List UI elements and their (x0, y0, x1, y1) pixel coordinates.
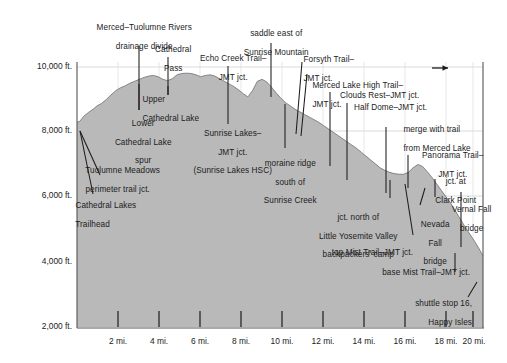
annotation-line: Cathedral Lakes (75, 201, 136, 210)
annotation-line: bridge (424, 257, 447, 266)
x-axis-label-10: 10 mi. (260, 337, 304, 347)
annotation-line: Forsyth Trail– (303, 55, 354, 64)
annotation-line: Tuolumne Meadows (85, 166, 160, 175)
annotation-line: JMT jct. (312, 100, 341, 109)
annotation-line: jct. north of (337, 213, 379, 222)
annotation-nevada-fall-bridge: Nevada Fall bridge (410, 211, 451, 276)
annotation-line: Merced Lake High Trail– (312, 81, 403, 90)
annotation-shuttle-stop-16-happy-isles: shuttle stop 16, Happy Isles (380, 290, 472, 336)
y-axis-label-10000: 10,000 ft. (8, 62, 72, 72)
annotation-line: JMT jct. (219, 73, 248, 82)
annotation-jct-north-little-yosemite-valley: jct. north of Little Yosemite Valley bac… (296, 204, 411, 269)
annotation-line: Nevada (421, 220, 450, 229)
annotation-line: Little Yosemite Valley (319, 232, 398, 241)
elevation-profile-figure: 10,000 ft. 8,000 ft. 6,000 ft. 4,000 ft.… (0, 0, 507, 363)
annotation-line: Vernal Fall (452, 205, 492, 214)
x-axis-label-8: 8 mi. (219, 337, 263, 347)
y-axis-label-8000: 8,000 ft. (8, 126, 72, 136)
annotation-line: shuttle stop 16, (415, 299, 472, 308)
x-axis-label-6: 6 mi. (178, 337, 222, 347)
x-axis-label-20: 20 mi. (452, 337, 496, 347)
y-axis-label-6000: 6,000 ft. (8, 191, 72, 201)
annotation-line: south of (275, 178, 305, 187)
annotation-line: Sunrise Lakes– (204, 129, 262, 138)
x-axis-label-12: 12 mi. (301, 337, 345, 347)
x-axis-label-4: 4 mi. (137, 337, 181, 347)
annotation-line: Lower (132, 119, 155, 128)
annotation-line: Panorama Trail– (422, 151, 483, 160)
annotation-base-mist-trail-jmt-jct: base Mist Trail–JMT jct. (340, 268, 470, 277)
x-axis-label-14: 14 mi. (342, 337, 386, 347)
annotation-half-dome-jmt-jct: Half Dome–JMT jct. (354, 103, 464, 112)
annotation-line: bridge (460, 224, 483, 233)
annotation-line: jct. at (446, 177, 466, 186)
y-axis-label-2000: 2,000 ft. (8, 322, 72, 332)
annotation-top-mist-trail-jmt-jct: top Mist Trail–JMT jct. (300, 248, 413, 257)
annotation-line: Happy Isles (428, 318, 472, 327)
annotation-line: Upper (142, 95, 165, 104)
x-axis-label-2: 2 mi. (96, 337, 140, 347)
x-axis-label-16: 16 mi. (383, 337, 427, 347)
annotation-line: moraine ridge (265, 159, 316, 168)
annotation-line: Merced–Tuolumne Rivers (97, 23, 192, 32)
annotation-line: Fall (428, 239, 442, 248)
annotation-line: Trailhead (75, 220, 110, 229)
annotation-line: merge with trail (403, 125, 460, 134)
annotation-cathedral-lakes-trailhead: Cathedral Lakes Trailhead (66, 192, 166, 238)
annotation-line: Cathedral Lake (115, 138, 172, 147)
annotation-line: saddle east of (250, 29, 302, 38)
y-axis-label-4000: 4,000 ft. (8, 257, 72, 267)
annotation-clouds-rest-jmt-jct: Clouds Rest–JMT jct. (340, 91, 450, 100)
